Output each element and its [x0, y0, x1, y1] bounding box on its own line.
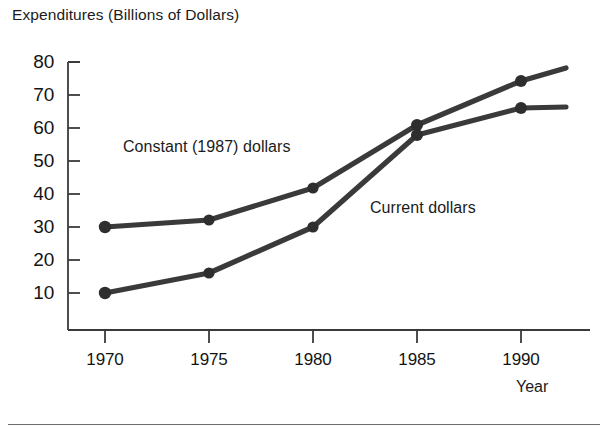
y-tick-label-80: 80 — [8, 51, 54, 73]
y-tick-label-70: 70 — [8, 84, 54, 106]
data-point-current-1980 — [307, 221, 318, 232]
y-tick-label-20: 20 — [8, 249, 54, 271]
axis-frame — [68, 62, 590, 330]
data-point-current-1975 — [203, 267, 214, 278]
series-label-current-dollars: Current dollars — [370, 199, 476, 217]
series-label-constant-dollars: Constant (1987) dollars — [123, 138, 290, 156]
data-point-constant-1980 — [307, 182, 318, 193]
y-tick-label-40: 40 — [8, 183, 54, 205]
y-tick-label-50: 50 — [8, 150, 54, 172]
y-tick-label-60: 60 — [8, 117, 54, 139]
y-tick-label-30: 30 — [8, 216, 54, 238]
x-tick-label-1980: 1980 — [278, 350, 348, 370]
x-axis-title: Year — [516, 378, 548, 396]
x-tick-label-1990: 1990 — [486, 350, 556, 370]
x-tick-label-1975: 1975 — [174, 350, 244, 370]
series-line-current-dollars — [99, 102, 566, 299]
bottom-divider — [8, 424, 600, 425]
x-tick-label-1985: 1985 — [382, 350, 452, 370]
y-tick-label-10: 10 — [8, 282, 54, 304]
data-point-current-1985 — [411, 129, 423, 141]
data-point-current-1970 — [99, 287, 111, 299]
data-point-current-1990 — [515, 102, 527, 114]
y-axis-ticks — [68, 62, 80, 293]
data-point-constant-1970 — [99, 221, 111, 233]
x-axis-ticks — [105, 330, 521, 343]
line-chart-plot — [0, 0, 611, 437]
data-point-constant-1990 — [515, 75, 527, 87]
data-point-constant-1975 — [203, 214, 214, 225]
x-tick-label-1970: 1970 — [70, 350, 140, 370]
chart-figure: Expenditures (Billions of Dollars) — [0, 0, 611, 437]
